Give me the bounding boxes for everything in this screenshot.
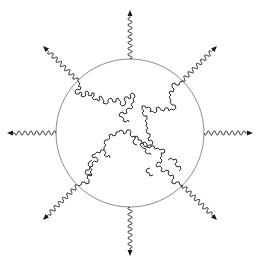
random-walk-chains <box>75 81 183 186</box>
chain-lower-left <box>78 130 137 186</box>
wavy-arrows <box>10 13 250 253</box>
arrow-east-icon <box>204 131 250 135</box>
arrow-west-icon <box>10 131 56 135</box>
arrow-northeast-icon <box>182 48 215 81</box>
arrow-south-icon <box>128 207 132 253</box>
diagram-canvas <box>0 0 259 264</box>
arrow-north-icon <box>128 13 132 59</box>
arrow-southeast-icon <box>182 185 215 218</box>
arrow-southwest-icon <box>45 185 78 218</box>
chain-upper-left <box>75 81 135 122</box>
diagram-svg <box>0 0 259 264</box>
arrow-northwest-icon <box>45 48 78 81</box>
